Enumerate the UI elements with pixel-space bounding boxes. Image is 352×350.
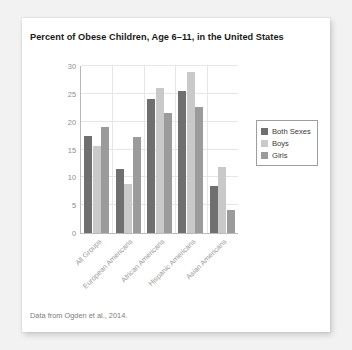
legend-item-label: Both Sexes [272,127,311,136]
bar [164,113,172,233]
bar-group [84,66,109,233]
legend-swatch-icon [261,152,268,159]
legend-item: Boys [261,137,311,149]
legend-item: Both Sexes [261,125,311,137]
y-axis-tick-label: 0 [72,229,76,238]
y-axis-tick-label: 5 [72,201,76,210]
y-axis-tick-label: 15 [68,145,76,154]
bar-group [178,66,203,233]
plot-area: 051015202530 All GroupsEuropean American… [80,66,238,234]
bar [101,127,109,233]
y-axis-tick-label: 20 [68,117,76,126]
bar [178,91,186,234]
y-axis-tick-label: 25 [68,89,76,98]
bar [156,88,164,233]
legend-swatch-icon [261,128,268,135]
bar [210,186,218,233]
bar [93,146,101,233]
legend-item-label: Girls [272,151,288,160]
chart-legend: Both SexesBoysGirls [256,120,318,166]
bar [124,184,132,233]
chart-footnote: Data from Ogden et al., 2014. [30,311,127,320]
figure-card: Percent of Obese Children, Age 6–11, in … [22,18,330,332]
bar [147,99,155,233]
bar [218,167,226,233]
bar-group [147,66,172,233]
bar [227,210,235,233]
bar-group [116,66,141,233]
y-axis-tick-label: 30 [68,62,76,71]
legend-item: Girls [261,149,311,161]
bar [187,72,195,233]
plot-wrapper: 051015202530 All GroupsEuropean American… [22,18,330,332]
x-axis-tick-label: All Groups [73,237,103,267]
bars-layer [81,66,238,233]
bar [133,137,141,233]
legend-swatch-icon [261,140,268,147]
bar [116,169,124,233]
y-axis-tick-label: 10 [68,173,76,182]
bar-group [210,66,235,233]
legend-item-label: Boys [272,139,289,148]
bar [84,136,92,233]
bar [195,107,203,233]
